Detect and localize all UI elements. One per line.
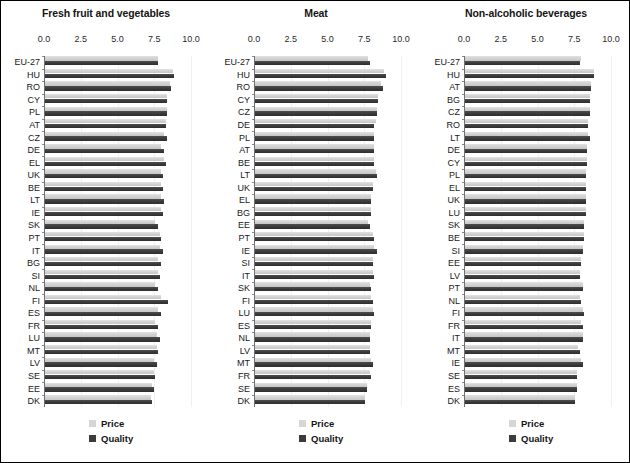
category-label: RO: [237, 82, 251, 92]
chart-row: LU: [44, 332, 191, 345]
y-axis-tick-mark: [42, 106, 44, 107]
legend-label-price: Price: [521, 418, 544, 429]
bar-quality: [45, 375, 155, 379]
category-label: BE: [238, 158, 250, 168]
category-label: UK: [447, 195, 460, 205]
category-label: BG: [447, 95, 460, 105]
bar-price: [255, 395, 365, 399]
chart-row: MT: [464, 345, 611, 358]
chart-row: EE: [44, 382, 191, 395]
chart-row: ES: [464, 382, 611, 395]
chart-row: HU: [44, 69, 191, 82]
y-axis-tick-mark: [252, 156, 254, 157]
bar-quality: [45, 149, 164, 153]
y-axis-tick-mark: [42, 144, 44, 145]
bar-price: [465, 194, 586, 198]
bar-quality: [45, 325, 158, 329]
y-axis-tick-mark: [252, 119, 254, 120]
chart-row: BE: [44, 182, 191, 195]
x-axis-tick-label: 2.5: [284, 34, 297, 44]
category-label: PL: [239, 133, 250, 143]
y-axis-tick-mark: [42, 257, 44, 258]
bar-price: [255, 194, 371, 198]
bar-price: [255, 144, 374, 148]
bar-price: [255, 94, 378, 98]
y-axis-tick-mark: [252, 320, 254, 321]
category-label: SK: [28, 220, 40, 230]
bar-quality: [255, 224, 370, 228]
y-axis-tick-mark: [462, 207, 464, 208]
category-label: DK: [447, 396, 460, 406]
bar-price: [45, 383, 152, 387]
bar-quality: [255, 275, 374, 279]
legend-item-price: Price: [421, 416, 630, 431]
bar-quality: [45, 237, 161, 241]
y-axis-tick-mark: [42, 81, 44, 82]
x-axis-tick-label: 0.0: [38, 34, 51, 44]
bar-price: [255, 245, 374, 249]
category-label: IT: [242, 271, 250, 281]
category-label: DE: [447, 145, 460, 155]
x-axis-tick-label: 10.0: [392, 34, 410, 44]
category-label: EU-27: [14, 57, 40, 67]
bar-price: [45, 295, 161, 299]
bar-price: [255, 132, 374, 136]
bar-quality: [255, 162, 374, 166]
bar-quality: [45, 199, 164, 203]
bar-quality: [465, 136, 590, 140]
y-axis-tick-mark: [462, 131, 464, 132]
y-axis-tick-mark: [462, 320, 464, 321]
bar-price: [255, 320, 371, 324]
bar-quality: [255, 375, 371, 379]
bar-price: [45, 107, 167, 111]
chart-row: PL: [254, 131, 401, 144]
category-label: DK: [27, 396, 40, 406]
category-label: FI: [242, 296, 250, 306]
bar-price: [45, 282, 155, 286]
bar-price: [465, 370, 577, 374]
y-axis-tick-mark: [462, 182, 464, 183]
bar-quality: [255, 249, 377, 253]
legend-item-price: Price: [211, 416, 421, 431]
category-label: LT: [30, 195, 40, 205]
y-axis-tick-mark: [252, 131, 254, 132]
bar-price: [255, 107, 377, 111]
bar-price: [255, 69, 384, 73]
bar-price: [465, 383, 577, 387]
bar-quality: [45, 124, 166, 128]
bar-quality: [255, 387, 367, 391]
y-axis-tick-mark: [42, 395, 44, 396]
chart-row: PL: [464, 169, 611, 182]
y-axis-tick-mark: [462, 219, 464, 220]
bar-price: [465, 182, 586, 186]
chart-row: SE: [464, 370, 611, 383]
category-label: IE: [451, 358, 460, 368]
y-axis-tick-mark: [42, 182, 44, 183]
category-label: BE: [448, 233, 460, 243]
chart-row: AT: [44, 119, 191, 132]
category-label: AT: [239, 145, 250, 155]
bar-quality: [465, 400, 575, 404]
category-label: SE: [238, 384, 250, 394]
bar-quality: [45, 249, 163, 253]
chart-row: RO: [254, 81, 401, 94]
chart-row: DE: [464, 144, 611, 157]
bar-price: [465, 232, 584, 236]
category-label: CZ: [448, 107, 460, 117]
category-label: PL: [449, 170, 460, 180]
y-axis-tick-mark: [42, 56, 44, 57]
chart-row: CY: [464, 156, 611, 169]
bar-quality: [465, 237, 584, 241]
bar-quality: [45, 287, 158, 291]
legend-swatch-price-icon: [89, 420, 96, 427]
category-label: HU: [27, 70, 40, 80]
chart-row: DE: [44, 144, 191, 157]
bar-quality: [465, 187, 586, 191]
category-label: PT: [238, 233, 250, 243]
y-axis-tick-mark: [462, 307, 464, 308]
y-axis-tick-mark: [252, 219, 254, 220]
y-axis-tick-mark: [462, 156, 464, 157]
chart-row: UK: [44, 169, 191, 182]
category-label: DE: [237, 120, 250, 130]
legend-swatch-quality-icon: [509, 435, 516, 442]
